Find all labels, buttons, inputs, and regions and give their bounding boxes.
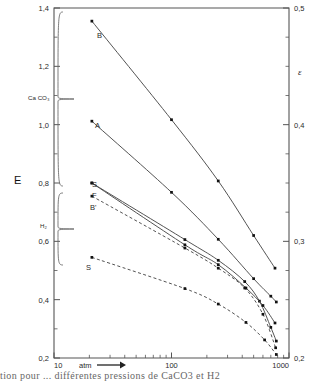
data-point-F: [274, 322, 277, 325]
series-line-B: [92, 21, 275, 268]
curve-label-F: F: [92, 191, 97, 200]
plot-frame: [54, 8, 289, 358]
series-line-S-CaCO3: [92, 183, 276, 341]
data-point-A: [170, 191, 173, 194]
data-point-F: [217, 263, 220, 266]
data-point-B-prime: [184, 247, 187, 250]
y2-axis-title: ε: [298, 67, 302, 77]
data-point-S-H2: [245, 321, 248, 324]
y-axis-tick-label: 1,0: [39, 121, 49, 130]
y-axis-title: E: [14, 174, 21, 186]
series-S-CaCO3: [91, 182, 278, 343]
data-point-F: [262, 304, 265, 307]
data-point-B-prime: [262, 313, 265, 316]
data-point-A: [252, 277, 255, 280]
brace-h2: [58, 193, 74, 265]
curve-label-S-CaCO3: S: [92, 180, 97, 189]
curve-label-B: B: [97, 31, 102, 40]
data-point-S-H2: [91, 256, 94, 259]
data-point-S-CaCO3: [217, 259, 220, 262]
data-point-S-H2: [263, 339, 266, 342]
figure-panel: 101001000atm0,20,40,60,81,01,21,40,20,30…: [0, 0, 315, 381]
group-label-h2: H₂: [40, 222, 47, 229]
series-F: [91, 182, 277, 325]
data-point-B: [91, 20, 94, 23]
x-axis-tick-label: 1000: [272, 361, 289, 370]
data-point-B: [274, 267, 277, 270]
data-point-S-CaCO3: [275, 340, 278, 343]
brace-caco3: [58, 12, 74, 186]
curve-label-B-prime: B': [90, 203, 97, 212]
y-axis-tick-label: 0,6: [39, 237, 49, 246]
data-point-S-CaCO3: [243, 280, 246, 283]
series-line-A: [92, 121, 276, 302]
data-point-S-H2: [275, 353, 278, 356]
data-point-B: [217, 180, 220, 183]
data-point-B-prime: [243, 287, 246, 290]
y2-axis-tick-label: 0,3: [294, 237, 304, 246]
y-axis-tick-label: 0,2: [39, 354, 49, 363]
data-point-S-CaCO3: [184, 238, 187, 241]
y2-axis-tick-label: 0,2: [294, 354, 304, 363]
series-S-H2: [91, 256, 278, 356]
x-axis-tick-label: 10: [54, 361, 62, 370]
data-point-S-H2: [217, 303, 220, 306]
data-point-S-CaCO3: [269, 326, 272, 329]
curve-label-S-H2: S: [86, 263, 91, 272]
data-point-S-H2: [184, 287, 187, 290]
series-B-prime: [91, 195, 278, 349]
data-point-A: [91, 120, 94, 123]
y2-axis-tick-label: 0,5: [294, 4, 304, 13]
y-axis-tick-label: 0,8: [39, 179, 49, 188]
curve-label-A: A: [95, 121, 100, 130]
group-label-caco3: Ca CO₃: [28, 94, 50, 101]
series-line-S-H2: [92, 257, 276, 354]
y2-axis-tick-label: 0,4: [294, 121, 304, 130]
data-point-F: [184, 243, 187, 246]
x-axis-tick-label: 100: [165, 361, 178, 370]
data-point-A: [269, 295, 272, 298]
x-axis-title: atm: [79, 361, 92, 370]
data-point-B-prime: [274, 346, 277, 349]
y-axis-tick-label: 1,2: [39, 62, 49, 71]
series-A: [91, 120, 278, 304]
figure-caption: tion pour ... différentes pressions de C…: [0, 370, 315, 381]
x-axis-arrow-head: [120, 362, 126, 369]
y-axis-tick-label: 1,4: [39, 4, 49, 13]
data-point-B: [170, 118, 173, 121]
data-point-B: [252, 234, 255, 237]
data-point-A: [275, 301, 278, 304]
data-point-A: [217, 238, 220, 241]
data-point-B-prime: [217, 267, 220, 270]
chart-canvas: 101001000atm0,20,40,60,81,01,21,40,20,30…: [0, 0, 315, 381]
y-axis-tick-label: 0,4: [39, 296, 49, 305]
